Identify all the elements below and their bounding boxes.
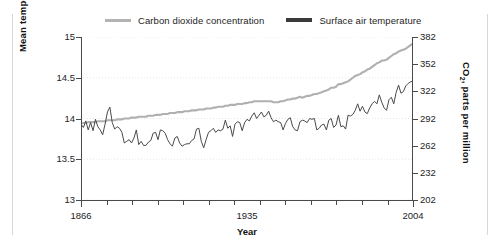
y-axis-left-tick: [76, 37, 81, 38]
y-axis-right-tick-label: 262: [420, 140, 436, 151]
x-axis-tick-label: 1935: [227, 210, 267, 221]
y-axis-left-tick: [76, 119, 81, 120]
y-axis-right-tick: [413, 37, 418, 38]
x-axis-minor-tick: [362, 201, 363, 205]
y-axis-left-title-text: Mean temperature, C: [17, 0, 28, 52]
y-axis-right-tick: [413, 146, 418, 147]
y-axis-right-tick-label: 202: [420, 194, 436, 205]
x-axis-minor-tick: [158, 201, 159, 205]
y-axis-right-tick-label: 292: [420, 113, 436, 124]
plot-canvas: [81, 37, 413, 200]
x-axis-minor-tick: [311, 201, 312, 205]
y-axis-left-tick-label: 13: [37, 194, 75, 205]
x-axis-minor-tick: [183, 201, 184, 205]
x-axis-tick-label: 2004: [393, 210, 433, 221]
legend-item-temperature: Surface air temperature: [286, 15, 421, 26]
x-axis-minor-tick: [336, 201, 337, 205]
x-axis-title: Year: [81, 226, 413, 237]
figure-frame-left: [12, 14, 13, 235]
y-axis-left-tick-label: 15: [37, 31, 75, 42]
y-axis-right-title-suffix: , parts per million: [461, 81, 472, 164]
y-axis-left-tick: [76, 159, 81, 160]
x-axis-minor-tick: [234, 201, 235, 205]
y-axis-right-tick-label: 382: [420, 31, 436, 42]
y-axis-left-tick-label: 14.5: [37, 72, 75, 83]
legend-swatch-temperature-icon: [286, 18, 312, 22]
plot-area: [81, 37, 413, 200]
y-axis-right-tick: [413, 64, 418, 65]
x-axis-minor-tick: [388, 201, 389, 205]
y-axis-right-tick: [413, 119, 418, 120]
series-line-temperature: [81, 81, 413, 148]
series-line-co2: [81, 43, 413, 123]
y-axis-left-line: [81, 37, 82, 201]
x-axis-major-tick: [81, 201, 82, 207]
x-axis-minor-tick: [209, 201, 210, 205]
y-axis-right-tick-label: 322: [420, 85, 436, 96]
y-axis-right-tick-label: 232: [420, 167, 436, 178]
y-axis-right-title: CO2, parts per million: [459, 62, 472, 194]
y-axis-left-tick-label: 13.5: [37, 153, 75, 164]
x-axis-minor-tick: [132, 201, 133, 205]
chart-legend: Carbon dioxide concentration Surface air…: [105, 12, 405, 28]
legend-item-co2: Carbon dioxide concentration: [105, 15, 264, 26]
y-axis-right-tick: [413, 173, 418, 174]
y-axis-left-title: Mean temperature, C°: [16, 0, 28, 52]
y-axis-left-tick-label: 14: [37, 113, 75, 124]
x-axis-line: [81, 200, 413, 201]
x-axis-minor-tick: [107, 201, 108, 205]
y-axis-right-tick-label: 352: [420, 58, 436, 69]
x-axis-major-tick: [413, 201, 414, 207]
x-axis-minor-tick: [285, 201, 286, 205]
legend-swatch-co2-icon: [105, 19, 131, 22]
legend-label-temperature: Surface air temperature: [319, 15, 421, 26]
y-axis-right-tick: [413, 91, 418, 92]
figure-frame-right: [487, 14, 488, 235]
y-axis-left-tick: [76, 78, 81, 79]
x-axis-minor-tick: [260, 201, 261, 205]
x-axis-tick-label: 1866: [61, 210, 101, 221]
chart-figure: Carbon dioxide concentration Surface air…: [0, 0, 499, 249]
legend-label-co2: Carbon dioxide concentration: [138, 15, 264, 26]
y-axis-right-title-prefix: CO: [461, 62, 472, 77]
